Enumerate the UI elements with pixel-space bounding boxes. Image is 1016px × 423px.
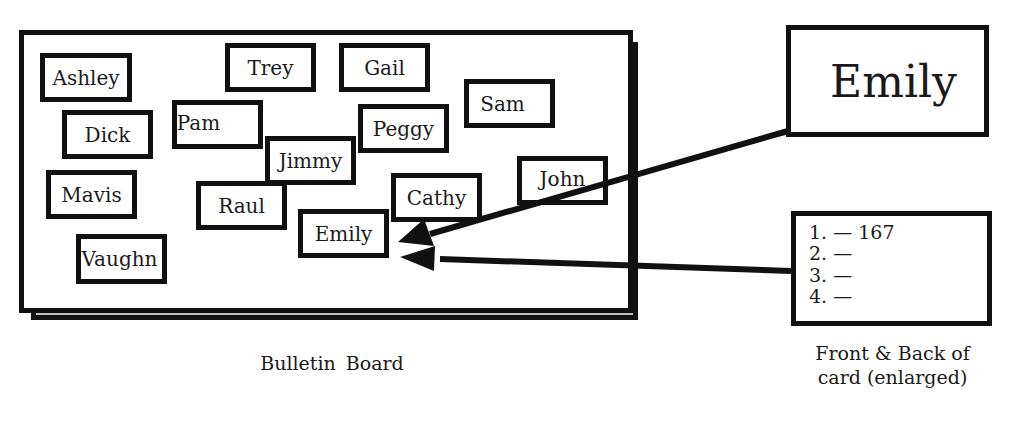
caption-line-1: Front & Back of xyxy=(790,342,995,366)
caption-line-2: card (enlarged) xyxy=(790,366,995,390)
back-line-1: 1. — 167 xyxy=(809,222,987,243)
enlarged-card-front: Emily xyxy=(786,25,989,137)
enlarged-card-back: 1. — 167 2. — 3. — 4. — xyxy=(791,211,992,326)
arrow-back-to-emily xyxy=(400,246,791,271)
back-line-3: 3. — xyxy=(809,265,987,286)
enlarged-card-caption: Front & Back of card (enlarged) xyxy=(790,342,995,390)
back-line-4: 4. — xyxy=(809,286,987,307)
back-line-2: 2. — xyxy=(809,243,987,264)
front-name: Emily xyxy=(830,56,957,107)
arrow-front-to-emily xyxy=(398,131,788,246)
